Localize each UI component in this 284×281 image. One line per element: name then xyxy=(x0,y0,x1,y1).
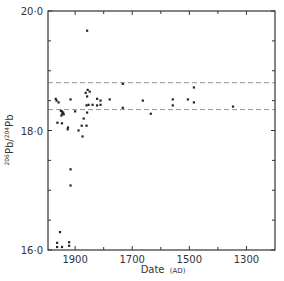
data-point xyxy=(99,100,101,102)
plot-frame xyxy=(48,11,275,250)
x-tick-label: 1300 xyxy=(234,254,259,265)
data-point xyxy=(68,241,70,243)
data-point xyxy=(232,106,234,108)
y-tick-label: 20·0 xyxy=(21,6,43,17)
data-point xyxy=(57,101,59,103)
data-point xyxy=(56,122,58,124)
x-axis-ticks: 1900170015001300 xyxy=(62,11,259,265)
data-point xyxy=(68,245,70,247)
x-tick-label: 1500 xyxy=(177,254,202,265)
data-points xyxy=(55,30,235,248)
data-point xyxy=(81,125,83,127)
data-point xyxy=(122,83,124,85)
data-point xyxy=(109,98,111,100)
data-point xyxy=(86,95,88,97)
y-axis-ticks: 16·018·020·0 xyxy=(21,6,275,256)
data-point xyxy=(96,98,98,100)
data-point xyxy=(69,168,71,170)
data-point xyxy=(56,246,58,248)
data-point xyxy=(77,129,79,131)
data-point xyxy=(55,100,57,102)
data-point xyxy=(63,113,65,115)
y-axis-title: 206Pb/204Pb xyxy=(3,114,15,165)
data-point xyxy=(60,114,62,116)
data-point xyxy=(59,231,61,233)
data-point xyxy=(99,104,101,106)
data-point xyxy=(122,107,124,109)
data-point xyxy=(85,92,87,94)
scatter-chart: 1900170015001300 16·018·020·0 Date (AD) … xyxy=(0,0,284,281)
data-point xyxy=(83,117,85,119)
data-point xyxy=(172,98,174,100)
data-point xyxy=(85,125,87,127)
data-point xyxy=(87,104,89,106)
data-point xyxy=(172,104,174,106)
data-point xyxy=(193,101,195,103)
data-point xyxy=(86,30,88,32)
data-point xyxy=(67,128,69,130)
data-point xyxy=(193,86,195,88)
data-point xyxy=(87,89,89,91)
y-tick-label: 16·0 xyxy=(21,245,43,256)
data-point xyxy=(69,98,71,100)
data-point xyxy=(187,98,189,100)
data-point xyxy=(69,184,71,186)
reference-lines xyxy=(48,83,275,110)
data-point xyxy=(86,111,88,113)
y-tick-label: 18·0 xyxy=(21,126,43,137)
data-point xyxy=(96,104,98,106)
data-point xyxy=(142,100,144,102)
data-point xyxy=(85,104,87,106)
x-axis-title: Date (AD) xyxy=(141,264,186,275)
x-tick-label: 1900 xyxy=(62,254,87,265)
data-point xyxy=(81,135,83,137)
data-point xyxy=(89,91,91,93)
data-point xyxy=(61,246,63,248)
data-point xyxy=(56,242,58,244)
data-point xyxy=(91,104,93,106)
data-point xyxy=(74,110,76,112)
data-point xyxy=(150,113,152,115)
data-point xyxy=(61,122,63,124)
